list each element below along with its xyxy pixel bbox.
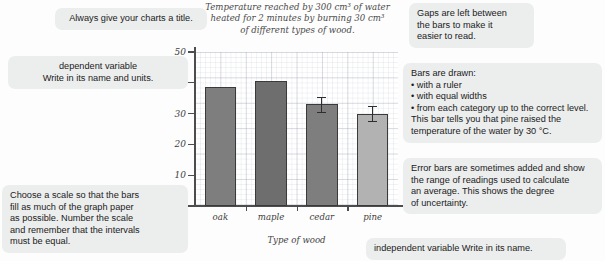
callout-line: Write in its name and units. bbox=[16, 73, 180, 85]
error-cap bbox=[317, 97, 326, 98]
chart-title-line-2: heated for 2 minutes by burning 30 cm³ bbox=[190, 13, 405, 24]
y-tick bbox=[188, 175, 194, 176]
callout-line: Always give your charts a title. bbox=[63, 13, 199, 25]
error-cap bbox=[317, 112, 326, 113]
callout-line: • with equal widths bbox=[411, 91, 594, 103]
error-cap bbox=[368, 106, 377, 107]
bar-chart: Temperature reached by 300 cm³ of water … bbox=[150, 0, 405, 261]
y-tick-label: 30 bbox=[175, 109, 186, 119]
callout-line: Gaps are left between bbox=[417, 8, 526, 20]
chart-title: Temperature reached by 300 cm³ of water … bbox=[190, 2, 405, 36]
callout-dependent-variable: dependent variableWrite in its name and … bbox=[8, 56, 188, 89]
callout-line: of uncertainty. bbox=[411, 198, 594, 210]
x-tick bbox=[347, 206, 348, 211]
callout-line: temperature of the water by 30 °C. bbox=[411, 126, 594, 138]
callout-line: • from each category up to the correct l… bbox=[411, 103, 594, 115]
callout-scale-advice: Choose a scale so that the barsfill as m… bbox=[2, 185, 188, 253]
error-cap bbox=[368, 121, 377, 122]
x-tick bbox=[297, 206, 298, 211]
error-bar-pine bbox=[372, 106, 373, 121]
bars-layer: oakmaplecedarpine bbox=[195, 52, 398, 206]
callout-line: must be equal. bbox=[10, 236, 180, 248]
callout-bars-drawn: Bars are drawn:• with a ruler• with equa… bbox=[403, 63, 602, 143]
x-category-label-cedar: cedar bbox=[310, 212, 335, 222]
bar-maple bbox=[255, 81, 286, 206]
x-category-label-pine: pine bbox=[363, 212, 382, 222]
callout-line: This bar tells you that pine raised the bbox=[411, 114, 594, 126]
callout-line: • with a ruler bbox=[411, 80, 594, 92]
chart-title-line-3: of different types of wood. bbox=[190, 25, 405, 36]
callout-gaps: Gaps are left betweenthe bars to make it… bbox=[409, 3, 534, 48]
y-tick bbox=[188, 113, 194, 114]
y-tick bbox=[188, 144, 194, 145]
callout-line: fill as much of the graph paper bbox=[10, 202, 180, 214]
callout-line: dependent variable bbox=[16, 61, 180, 73]
worksheet-canvas: Temperature reached by 300 cm³ of water … bbox=[0, 0, 605, 261]
callout-independent-variable: independent variable Write in its name. bbox=[366, 238, 566, 260]
bar-pine bbox=[357, 114, 388, 206]
callout-line: the bars to make it bbox=[417, 20, 526, 32]
callout-line: easier to read. bbox=[417, 31, 526, 43]
plot-area: 01020304050 oakmaplecedarpine bbox=[195, 52, 398, 206]
callout-line: Error bars are sometimes added and show bbox=[411, 163, 594, 175]
callout-line: independent variable Write in its name. bbox=[374, 243, 558, 255]
callout-line: Bars are drawn: bbox=[411, 68, 594, 80]
x-tick bbox=[246, 206, 247, 211]
callout-title-advice: Always give your charts a title. bbox=[55, 8, 207, 30]
callout-line: as possible. Number the scale bbox=[10, 213, 180, 225]
y-tick-label: 20 bbox=[175, 139, 186, 149]
callout-line: the range of readings used to calculate bbox=[411, 175, 594, 187]
error-bar-cedar bbox=[321, 97, 322, 112]
callout-line: an average. This shows the degree bbox=[411, 186, 594, 198]
x-category-label-maple: maple bbox=[258, 212, 285, 222]
callout-line: Choose a scale so that the bars bbox=[10, 190, 180, 202]
bar-oak bbox=[205, 87, 236, 206]
y-tick-label: 10 bbox=[175, 170, 186, 180]
bar-cedar bbox=[306, 104, 337, 206]
y-tick bbox=[188, 205, 194, 206]
callout-line: and remember that the intervals bbox=[10, 225, 180, 237]
x-category-label-oak: oak bbox=[213, 212, 229, 222]
y-tick bbox=[188, 82, 194, 83]
chart-title-line-1: Temperature reached by 300 cm³ of water bbox=[190, 2, 405, 13]
callout-error-bars: Error bars are sometimes added and showt… bbox=[403, 158, 602, 214]
y-tick bbox=[188, 51, 194, 52]
